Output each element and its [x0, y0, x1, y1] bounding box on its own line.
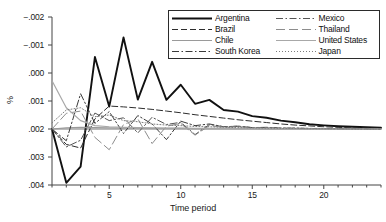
- chart-legend: ArgentinaMexicoBrazilThailandChileUnited…: [168, 10, 380, 59]
- legend-swatch-icon: [172, 36, 212, 45]
- y-tick-label: −.002: [10, 12, 44, 22]
- x-tick-label: 15: [241, 190, 263, 200]
- y-tick-label: .001: [10, 96, 44, 106]
- legend-label: Chile: [215, 35, 233, 46]
- legend-label: Mexico: [319, 13, 345, 24]
- legend-item-japan: Japan: [276, 46, 377, 57]
- legend-swatch-icon: [276, 14, 316, 23]
- legend-swatch-icon: [276, 36, 316, 45]
- series-line-argentina: [52, 37, 381, 182]
- y-tick-label: .002: [10, 124, 44, 134]
- legend-item-south-korea: South Korea: [172, 46, 273, 57]
- legend-item-thailand: Thailand: [276, 24, 377, 35]
- legend-swatch-icon: [276, 47, 316, 56]
- x-tick-label: 20: [313, 190, 335, 200]
- legend-item-brazil: Brazil: [172, 24, 273, 35]
- legend-label: Brazil: [215, 24, 235, 35]
- legend-item-united-states: United States: [276, 35, 377, 46]
- x-axis-title: Time period: [0, 203, 386, 213]
- chart-figure: .004.003.002.001.000−.001−.002 5101520 %…: [0, 0, 386, 222]
- legend-item-mexico: Mexico: [276, 13, 377, 24]
- legend-swatch-icon: [172, 47, 212, 56]
- legend-label: Thailand: [319, 24, 350, 35]
- legend-item-argentina: Argentina: [172, 13, 273, 24]
- legend-item-chile: Chile: [172, 35, 273, 46]
- legend-label: Japan: [319, 46, 341, 57]
- y-tick-label: −.001: [10, 40, 44, 50]
- legend-swatch-icon: [276, 25, 316, 34]
- legend-label: South Korea: [215, 46, 260, 57]
- y-tick-label: .003: [10, 152, 44, 162]
- y-tick-label: .004: [10, 180, 44, 190]
- x-tick-label: 10: [170, 190, 192, 200]
- y-tick-label: .000: [10, 68, 44, 78]
- y-axis-title: %: [5, 88, 15, 112]
- x-tick-label: 5: [98, 190, 120, 200]
- legend-swatch-icon: [172, 25, 212, 34]
- legend-swatch-icon: [172, 14, 212, 23]
- legend-label: United States: [319, 35, 367, 46]
- legend-label: Argentina: [215, 13, 250, 24]
